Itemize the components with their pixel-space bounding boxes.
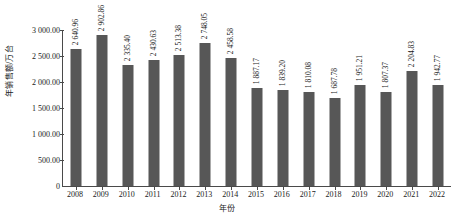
bar: [251, 88, 262, 186]
x-axis-title: 年份: [0, 204, 455, 214]
bar-value-label: 1 951.21: [356, 53, 364, 83]
y-tick-mark: [60, 56, 64, 57]
y-axis-tick-labels: 0500.001 000.001 500.002 000.002 500.003…: [16, 24, 60, 186]
bar-group: 2 430.63: [141, 30, 167, 186]
bar: [200, 43, 211, 186]
x-tick-label: 2021: [403, 190, 419, 200]
bar: [277, 90, 288, 186]
x-tick-label: 2014: [222, 190, 238, 200]
bar-chart: 年销售额/万台 0500.001 000.001 500.002 000.002…: [0, 0, 455, 223]
x-tick-label: 2016: [274, 190, 290, 200]
bar-group: 1 687.78: [322, 30, 348, 186]
x-tick-label: 2018: [326, 190, 342, 200]
bar-value-label: 1 887.17: [253, 56, 261, 86]
bar: [381, 92, 392, 186]
bar-group: 2 204.83: [399, 30, 425, 186]
y-tick-mark: [60, 134, 64, 135]
x-tick-label: 2013: [196, 190, 212, 200]
bar: [433, 85, 444, 186]
y-tick-mark: [60, 82, 64, 83]
y-tick-label: 1 500.00: [16, 104, 60, 113]
bar-group: 1 942.77: [425, 30, 451, 186]
bar: [303, 92, 314, 186]
y-tick-label: 2 000.00: [16, 78, 60, 87]
bar-group: 2 513.38: [166, 30, 192, 186]
bar-group: 1 887.17: [244, 30, 270, 186]
y-tick-label: 0: [16, 182, 60, 191]
bar-value-label: 2 902.86: [98, 3, 106, 33]
bar: [355, 85, 366, 186]
y-tick-label: 2 500.00: [16, 52, 60, 61]
bar-value-label: 1 839.20: [279, 58, 287, 88]
bar-value-label: 2 748.05: [201, 11, 209, 41]
bar-value-label: 1 942.77: [434, 53, 442, 83]
bar-value-label: 2 458.58: [227, 26, 235, 56]
bar-value-label: 2 430.63: [150, 28, 158, 58]
bar-value-label: 2 204.83: [408, 39, 416, 69]
bar-group: 2 640.96: [63, 30, 89, 186]
y-tick-label: 500.00: [16, 156, 60, 165]
bar-group: 2 748.05: [192, 30, 218, 186]
bar-group: 2 458.58: [218, 30, 244, 186]
bar: [407, 71, 418, 186]
bar: [226, 58, 237, 186]
x-tick-label: 2015: [248, 190, 264, 200]
x-tick-label: 2009: [93, 190, 109, 200]
x-tick-label: 2022: [429, 190, 445, 200]
bar-group: 1 807.37: [373, 30, 399, 186]
bar-group: 1 839.20: [270, 30, 296, 186]
x-axis-tick-labels: 2008200920102011201220132014201520162017…: [62, 190, 450, 202]
y-axis-title: 年销售额/万台: [5, 27, 15, 115]
x-tick-label: 2008: [67, 190, 83, 200]
bar: [122, 65, 133, 186]
bar-group: 2 335.40: [115, 30, 141, 186]
bar-value-label: 1 687.78: [331, 66, 339, 96]
x-tick-label: 2017: [300, 190, 316, 200]
bar: [329, 98, 340, 186]
bar-value-label: 2 640.96: [72, 17, 80, 47]
x-tick-label: 2020: [377, 190, 393, 200]
bar-value-label: 2 335.40: [124, 33, 132, 63]
y-tick-mark: [60, 30, 64, 31]
bar: [174, 55, 185, 186]
bar: [96, 35, 107, 186]
bar-group: 1 951.21: [348, 30, 374, 186]
y-tick-mark: [60, 160, 64, 161]
bar-value-label: 1 810.08: [305, 60, 313, 90]
x-tick-label: 2019: [351, 190, 367, 200]
bar-value-label: 1 807.37: [382, 60, 390, 90]
y-tick-label: 3 000.00: [16, 26, 60, 35]
plot-area: 2 640.962 902.862 335.402 430.632 513.38…: [62, 30, 451, 187]
bar-value-label: 2 513.38: [175, 23, 183, 53]
bar: [70, 49, 81, 186]
bars-layer: 2 640.962 902.862 335.402 430.632 513.38…: [63, 30, 451, 186]
y-tick-label: 1 000.00: [16, 130, 60, 139]
bar-group: 2 902.86: [89, 30, 115, 186]
bar: [148, 60, 159, 186]
x-tick-label: 2012: [170, 190, 186, 200]
y-tick-mark: [60, 108, 64, 109]
x-tick-label: 2011: [145, 190, 161, 200]
bar-group: 1 810.08: [296, 30, 322, 186]
x-tick-label: 2010: [119, 190, 135, 200]
